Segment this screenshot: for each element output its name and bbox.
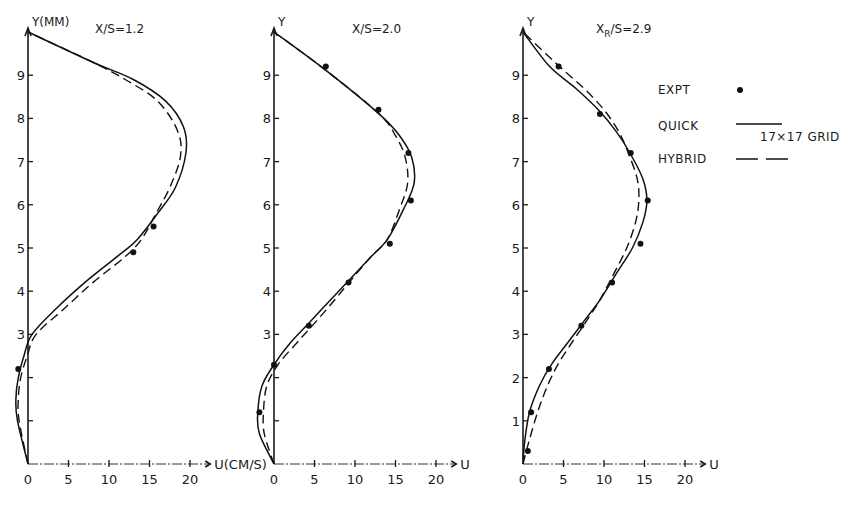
expt-point [256,409,262,415]
quick-curve [523,32,647,464]
y-tick-label: 8 [512,111,520,126]
panel-title: XR/S=2.9 [596,22,651,39]
x-tick-label: 15 [141,472,158,487]
expt-point [637,241,643,247]
y-axis-label: Y [277,15,286,29]
velocity-profile-figure: 051015203456789Y(MM)U(CM/S)X/S=1.2051015… [0,0,857,505]
x-axis-label: U(CM/S) [214,457,267,472]
expt-point [525,448,531,454]
y-tick-label: 9 [512,68,520,83]
expt-point [323,64,329,70]
y-tick-label: 8 [17,111,25,126]
y-tick-label: 5 [263,241,271,256]
x-tick-label: 0 [519,472,527,487]
expt-point [578,323,584,329]
expt-point [346,280,352,286]
expt-point [546,366,552,372]
x-tick-label: 5 [559,472,567,487]
y-tick-label: 5 [512,241,520,256]
legend-hybrid-label: HYBRID [658,152,707,166]
legend-grid-note: 17×17 GRID [760,130,840,144]
expt-point [375,107,381,113]
x-tick-label: 0 [270,472,278,487]
hybrid-curve [263,32,408,464]
expt-point [306,323,312,329]
legend-expt-marker [737,87,743,93]
expt-point [408,197,414,203]
x-tick-label: 15 [387,472,404,487]
x-tick-label: 10 [596,472,613,487]
x-tick-label: 5 [64,472,72,487]
panel-title: X/S=1.2 [95,22,144,36]
legend-quick-label: QUICK [658,119,699,133]
expt-point [271,362,277,368]
expt-point [628,150,634,156]
x-tick-label: 10 [101,472,118,487]
expt-point [645,197,651,203]
x-tick-label: 5 [310,472,318,487]
expt-point [130,249,136,255]
y-tick-label: 4 [17,284,25,299]
panel-title: X/S=2.0 [352,22,401,36]
x-axis-label: U [460,457,470,472]
expt-point [556,64,562,70]
quick-curve [257,32,414,464]
expt-point [528,409,534,415]
x-axis-label: U [709,457,719,472]
y-tick-label: 8 [263,111,271,126]
y-tick-label: 4 [263,284,271,299]
y-tick-label: 6 [263,198,271,213]
x-tick-label: 10 [347,472,364,487]
y-tick-label: 2 [512,371,520,386]
y-tick-label: 7 [512,155,520,170]
x-tick-label: 20 [182,472,199,487]
panel-1: 051015203456789Y(MM)U(CM/S)X/S=1.2 [15,15,267,487]
y-tick-label: 6 [512,198,520,213]
x-tick-label: 20 [428,472,445,487]
y-tick-label: 4 [512,284,520,299]
y-tick-label: 7 [263,155,271,170]
y-tick-label: 1 [512,414,520,429]
panels: 051015203456789Y(MM)U(CM/S)X/S=1.2051015… [15,15,718,487]
panel-2: 051015203456789YUX/S=2.0 [256,15,469,487]
legend: EXPT QUICK 17×17 GRID HYBRID [658,83,840,166]
y-tick-label: 6 [17,198,25,213]
y-tick-label: 9 [17,68,25,83]
expt-point [597,111,603,117]
y-tick-label: 3 [17,327,25,342]
y-axis-label: Y [526,15,535,29]
expt-point [151,223,157,229]
x-tick-label: 15 [636,472,653,487]
y-tick-label: 5 [17,241,25,256]
y-tick-label: 3 [512,327,520,342]
legend-expt-label: EXPT [658,83,691,97]
expt-point [15,366,21,372]
expt-point [387,241,393,247]
x-tick-label: 20 [677,472,694,487]
hybrid-curve [18,32,181,464]
hybrid-curve [523,32,639,464]
y-tick-label: 3 [263,327,271,342]
y-tick-label: 9 [263,68,271,83]
quick-curve [16,32,187,464]
expt-point [609,280,615,286]
y-tick-label: 7 [17,155,25,170]
x-tick-label: 0 [24,472,32,487]
expt-point [405,150,411,156]
y-axis-label: Y(MM) [31,15,69,29]
